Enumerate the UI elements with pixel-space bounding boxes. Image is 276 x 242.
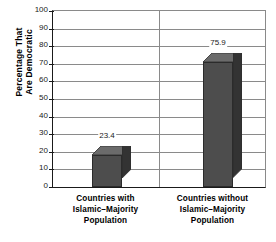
category-divider <box>159 11 160 187</box>
x-axis-label-line: Population <box>159 215 266 226</box>
x-axis-label-line: Islamic–Majority <box>159 204 266 215</box>
y-tick-label: 50 <box>26 94 48 102</box>
y-tick-label: 0 <box>26 182 48 190</box>
bar-value-label: 75.9 <box>209 39 227 47</box>
y-tickmark <box>49 99 54 100</box>
y-tick-label: 20 <box>26 147 48 155</box>
x-axis-label-line: Countries without <box>159 193 266 204</box>
y-tickmark <box>49 64 54 65</box>
y-tick-label: 80 <box>26 41 48 49</box>
y-tickmark <box>49 169 54 170</box>
bar-side-face <box>122 146 131 178</box>
y-tickmark <box>49 117 54 118</box>
y-tick-label: 40 <box>26 112 48 120</box>
x-axis-category-labels: Countries with Islamic–Majority Populati… <box>52 193 266 238</box>
x-axis-label-category-2: Countries without Islamic–Majority Popul… <box>159 193 266 238</box>
y-tickmark <box>49 152 54 153</box>
y-tick-label: 10 <box>26 164 48 172</box>
x-axis-label-line: Population <box>52 215 159 226</box>
x-axis-label-category-1: Countries with Islamic–Majority Populati… <box>52 193 159 238</box>
y-tick-label: 70 <box>26 59 48 67</box>
y-axis-title-line-1: Percentage That <box>14 27 25 96</box>
bar-countries-with-islamic-majority: 23.4 <box>92 146 122 187</box>
y-tick-label: 90 <box>26 24 48 32</box>
bar-front-face <box>92 155 122 187</box>
y-tickmark <box>49 134 54 135</box>
x-axis-label-line: Countries with <box>52 193 159 204</box>
y-axis-tick-labels: 100 90 80 70 60 50 40 30 20 10 0 <box>26 0 48 242</box>
y-tickmark <box>49 29 54 30</box>
y-tick-label: 100 <box>26 6 48 14</box>
bar-top-face <box>92 146 122 155</box>
y-tickmark <box>49 46 54 47</box>
bar-value-label: 23.4 <box>98 132 116 140</box>
bar-top-face <box>203 53 233 62</box>
y-tick-label: 30 <box>26 129 48 137</box>
plot-area: 23.4 75.9 <box>52 10 266 188</box>
bar-countries-without-islamic-majority: 75.9 <box>203 53 233 187</box>
bar-side-face <box>233 53 242 178</box>
y-tickmark <box>49 187 54 188</box>
y-tickmark <box>49 11 54 12</box>
y-tickmark <box>49 81 54 82</box>
x-axis-label-line: Islamic–Majority <box>52 204 159 215</box>
y-tick-label: 60 <box>26 76 48 84</box>
bar-front-face <box>203 62 233 187</box>
bar-chart: Percentage That Are Democratic 100 90 80… <box>0 0 276 242</box>
